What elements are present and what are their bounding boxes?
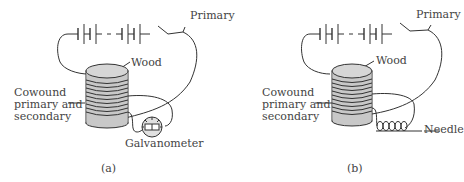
label-primary-a: Primary [190,10,235,22]
label-wood-a: Wood [131,57,162,69]
label-wood-b: Wood [376,55,407,67]
label-coil-line3-b: secondary [262,111,319,123]
coil-core-b [332,64,372,126]
caption-a: (a) [101,162,116,175]
primary-wire-left-a [58,34,88,74]
coil-core-a [86,64,128,128]
primary-wire-right-a [125,32,197,118]
caption-b: (b) [347,162,363,175]
galvanometer-icon [142,117,162,137]
label-needle: Needle [424,124,464,136]
battery-a [68,24,150,44]
needle-coil-icon [377,122,407,131]
label-primary-b: Primary [416,9,461,21]
label-galvanometer: Galvanometer [125,138,203,150]
label-coil-line3-a: secondary [14,111,71,123]
